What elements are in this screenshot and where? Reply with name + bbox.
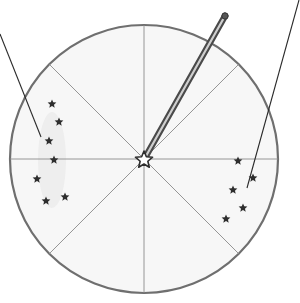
rod-tip [222, 13, 228, 19]
sky-dial-diagram [0, 0, 300, 303]
dial-canvas [0, 0, 300, 303]
